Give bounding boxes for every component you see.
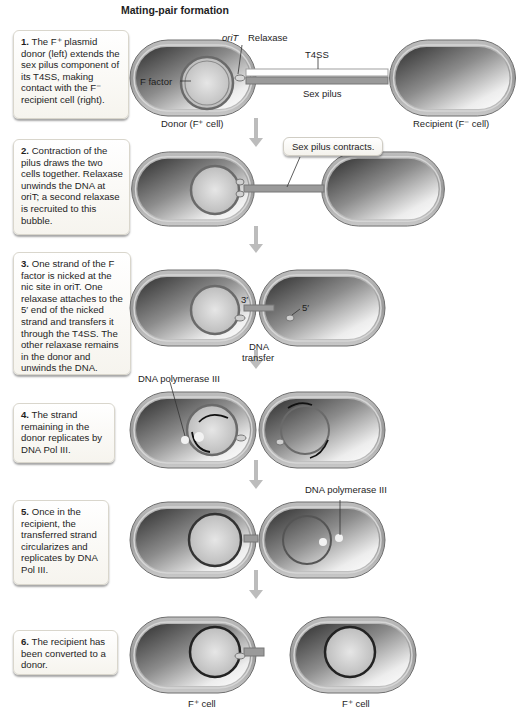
label-3-prime: 3′ — [241, 294, 248, 305]
label-recipient: Recipient (F⁻ cell) — [413, 118, 489, 129]
row-4-cells — [130, 382, 385, 468]
label-fplus-cell-right: F⁺ cell — [342, 698, 370, 709]
row-2-cells — [132, 152, 445, 226]
label-relaxase: Relaxase — [248, 32, 288, 43]
label-dna-transfer-line1: DNA — [249, 341, 269, 352]
label-sex-pilus: Sex pilus — [303, 88, 342, 99]
label-f-factor: F factor — [140, 76, 172, 87]
label-5-prime: 5′ — [302, 302, 309, 313]
label-dna-transfer-line2: transfer — [242, 352, 274, 363]
row-6-cells — [130, 617, 416, 693]
label-dna-polymerase-iii-donor: DNA polymerase III — [138, 373, 220, 384]
label-t4ss: T4SS — [305, 49, 329, 60]
row-5-cells — [130, 500, 385, 578]
label-dna-polymerase-iii-recipient: DNA polymerase III — [305, 484, 387, 495]
row-3-cells — [130, 270, 385, 346]
label-donor: Donor (F⁺ cell) — [161, 118, 224, 129]
callout-pilus-contracts: Sex pilus contracts. — [283, 137, 383, 156]
label-fplus-cell-left: F⁺ cell — [188, 698, 216, 709]
label-oriT: oriT — [222, 32, 238, 43]
